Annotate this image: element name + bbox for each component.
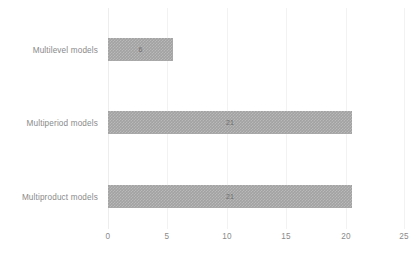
gridline-25 (404, 8, 405, 229)
bar-value-label-multiperiod-models: 21 (226, 119, 234, 126)
y-axis-category-labels: Multilevel models Multiperiod models Mul… (0, 8, 108, 229)
bar-track-multilevel-models: 6 (108, 38, 173, 61)
x-tick-label-25: 25 (399, 233, 409, 241)
bar-value-label-multiproduct-models: 21 (226, 193, 234, 200)
bar-multiperiod-models[interactable]: 21 (108, 111, 352, 134)
x-axis-tick-labels: 0 5 10 15 20 25 (108, 233, 405, 253)
bar-multiproduct-models[interactable]: 21 (108, 185, 352, 208)
bar-track-multiproduct-models: 21 (108, 185, 352, 208)
x-tick-label-0: 0 (106, 233, 111, 241)
x-tick-label-20: 20 (341, 233, 351, 241)
bar-value-label-multilevel-models: 6 (138, 46, 142, 53)
bar-chart: Multilevel models Multiperiod models Mul… (0, 0, 416, 261)
x-tick-label-5: 5 (165, 233, 170, 241)
plot-area: 6 21 21 (108, 8, 405, 229)
category-label-multiperiod-models: Multiperiod models (27, 120, 98, 128)
x-tick-label-15: 15 (281, 233, 291, 241)
bar-multilevel-models[interactable]: 6 (108, 38, 173, 61)
bar-track-multiperiod-models: 21 (108, 111, 352, 134)
category-label-multilevel-models: Multilevel models (33, 47, 98, 55)
x-tick-label-10: 10 (222, 233, 232, 241)
category-label-multiproduct-models: Multiproduct models (22, 194, 98, 202)
